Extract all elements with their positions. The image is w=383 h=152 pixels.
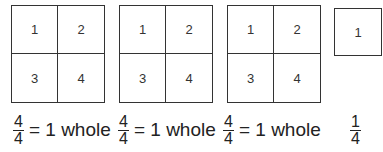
grid-cell: 4	[166, 54, 212, 102]
fraction: 4 4	[13, 114, 24, 147]
grid-cell: 4	[58, 54, 104, 102]
grid-cell: 3	[12, 54, 58, 102]
equation-3: 4 4 = 1 whole	[223, 112, 321, 148]
numerator: 4	[13, 114, 24, 131]
grid-cell: 4	[274, 54, 320, 102]
grid-cell: 2	[274, 6, 320, 54]
equation-text: = 1 whole	[239, 119, 321, 141]
grid-cell: 2	[58, 6, 104, 54]
grid-cell: 1	[228, 6, 274, 54]
equation-text: = 1 whole	[29, 119, 111, 141]
grid-cell: 2	[166, 6, 212, 54]
grid-cell: 3	[228, 54, 274, 102]
equation-text: = 1 whole	[134, 119, 216, 141]
equation-4: 1 4	[350, 112, 366, 148]
fraction: 4 4	[118, 114, 129, 147]
numerator: 1	[350, 114, 361, 131]
denominator: 4	[351, 131, 360, 147]
denominator: 4	[14, 131, 23, 147]
numerator: 4	[223, 114, 234, 131]
numerator: 4	[118, 114, 129, 131]
fraction-grid-3: 1 2 3 4	[227, 5, 321, 103]
single-quarter-square: 1	[334, 8, 382, 56]
equation-2: 4 4 = 1 whole	[118, 112, 216, 148]
fraction: 4 4	[223, 114, 234, 147]
fraction-grid-1: 1 2 3 4	[11, 5, 105, 103]
fraction-grid-2: 1 2 3 4	[119, 5, 213, 103]
fraction: 1 4	[350, 114, 361, 147]
grid-cell: 1	[12, 6, 58, 54]
denominator: 4	[119, 131, 128, 147]
grid-cell: 1	[120, 6, 166, 54]
equation-1: 4 4 = 1 whole	[13, 112, 111, 148]
denominator: 4	[224, 131, 233, 147]
grid-cell: 3	[120, 54, 166, 102]
